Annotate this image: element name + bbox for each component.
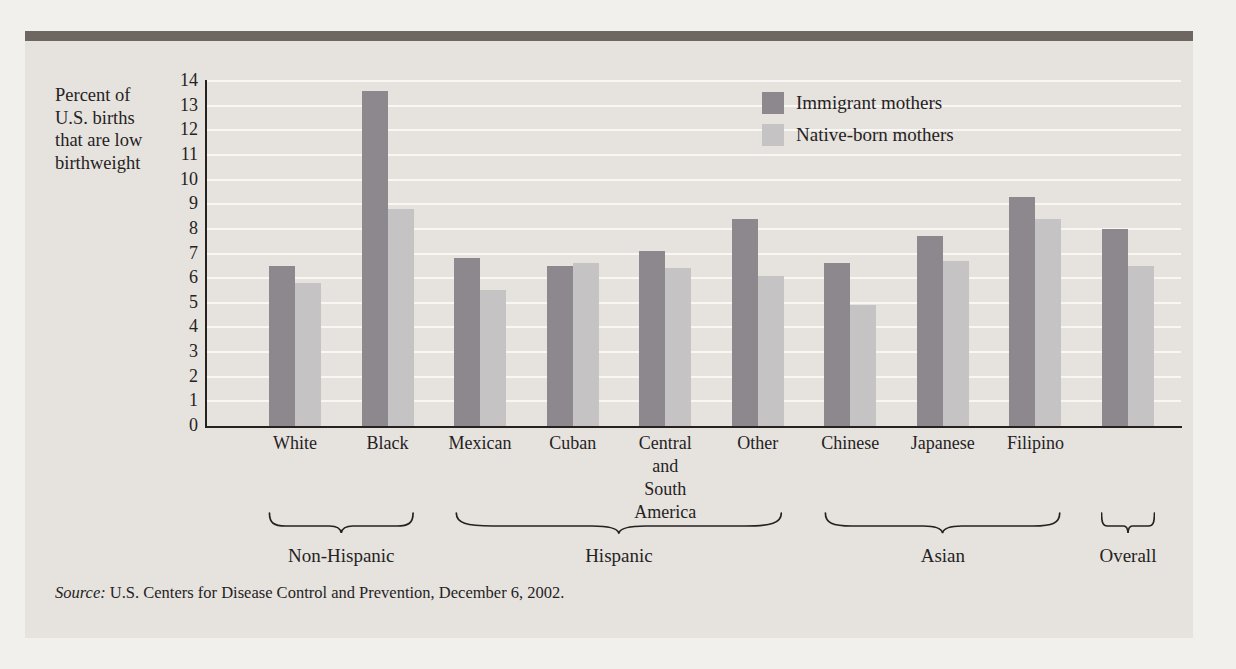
x-axis-line	[205, 426, 1182, 428]
bar-central-and-south-america-immigrant-mothers	[639, 251, 665, 426]
gridline	[207, 80, 1181, 82]
y-tick-label: 11	[158, 143, 198, 165]
x-tick-label-filipino: Filipino	[970, 432, 1100, 455]
y-tick-label: 8	[158, 217, 198, 239]
bar-chinese-immigrant-mothers	[824, 263, 850, 426]
legend-label-native-born-mothers: Native-born mothers	[796, 124, 954, 146]
y-tick-label: 7	[158, 242, 198, 264]
bar-black-immigrant-mothers	[362, 91, 388, 426]
group-label-non-hispanic: Non-Hispanic	[251, 545, 431, 567]
plot-area: 01234567891011121314WhiteBlackMexicanCub…	[0, 0, 1236, 669]
group-label-overall: Overall	[1038, 545, 1218, 567]
group-label-hispanic: Hispanic	[529, 545, 709, 567]
bar-overall-native-born-mothers	[1128, 266, 1154, 426]
y-tick-label: 2	[158, 365, 198, 387]
x-tick-line: Filipino	[970, 432, 1100, 455]
source-prefix: Source:	[55, 583, 106, 602]
gridline	[207, 129, 1181, 131]
bar-overall-immigrant-mothers	[1102, 229, 1128, 426]
bar-white-immigrant-mothers	[269, 266, 295, 426]
legend: Immigrant mothers Native-born mothers	[762, 92, 954, 156]
y-axis-title-line: Percent of	[55, 84, 142, 107]
legend-swatch-immigrant-mothers	[762, 92, 784, 114]
y-axis-title: Percent of U.S. births that are low birt…	[55, 84, 142, 174]
y-tick-label: 4	[158, 315, 198, 337]
bar-cuban-immigrant-mothers	[547, 266, 573, 426]
y-axis-line	[205, 80, 207, 426]
legend-label-immigrant-mothers: Immigrant mothers	[796, 92, 942, 114]
y-tick-label: 6	[158, 266, 198, 288]
group-label-asian: Asian	[853, 545, 1033, 567]
group-brace-hispanic	[453, 512, 785, 534]
x-tick-line: South	[600, 478, 730, 501]
legend-swatch-native-born-mothers	[762, 124, 784, 146]
y-tick-label: 5	[158, 291, 198, 313]
x-tick-line: and	[600, 455, 730, 478]
bar-chinese-native-born-mothers	[850, 305, 876, 426]
bar-central-and-south-america-native-born-mothers	[665, 268, 691, 426]
legend-item-immigrant-mothers: Immigrant mothers	[762, 92, 954, 114]
y-tick-label: 14	[158, 69, 198, 91]
bar-other-immigrant-mothers	[732, 219, 758, 426]
y-tick-label: 1	[158, 389, 198, 411]
y-tick-label: 9	[158, 192, 198, 214]
group-brace-asian	[823, 512, 1062, 534]
gridline	[207, 179, 1181, 181]
gridline	[207, 105, 1181, 107]
bar-white-native-born-mothers	[295, 283, 321, 426]
y-axis-title-line: that are low	[55, 129, 142, 152]
bar-filipino-native-born-mothers	[1035, 219, 1061, 426]
gridline	[207, 154, 1181, 156]
y-tick-label: 13	[158, 94, 198, 116]
y-axis-title-line: birthweight	[55, 152, 142, 175]
bar-other-native-born-mothers	[758, 276, 784, 426]
bar-japanese-immigrant-mothers	[917, 236, 943, 426]
legend-item-native-born-mothers: Native-born mothers	[762, 124, 954, 146]
bar-mexican-native-born-mothers	[480, 290, 506, 426]
bar-japanese-native-born-mothers	[943, 261, 969, 426]
y-tick-label: 10	[158, 168, 198, 190]
source-text: U.S. Centers for Disease Control and Pre…	[106, 583, 565, 602]
y-axis-title-line: U.S. births	[55, 107, 142, 130]
group-brace-overall	[1101, 512, 1155, 534]
source-note: Source: U.S. Centers for Disease Control…	[55, 583, 564, 603]
bar-cuban-native-born-mothers	[573, 263, 599, 426]
bar-black-native-born-mothers	[388, 209, 414, 426]
y-tick-label: 12	[158, 118, 198, 140]
bar-mexican-immigrant-mothers	[454, 258, 480, 426]
bar-filipino-immigrant-mothers	[1009, 197, 1035, 426]
y-tick-label: 0	[158, 414, 198, 436]
y-tick-label: 3	[158, 340, 198, 362]
group-brace-non-hispanic	[268, 512, 415, 534]
figure: 01234567891011121314WhiteBlackMexicanCub…	[0, 0, 1236, 669]
